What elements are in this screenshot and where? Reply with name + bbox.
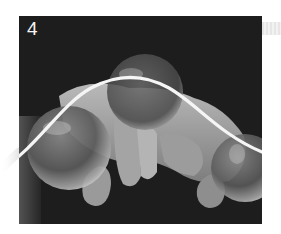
side-tab [262,22,281,35]
crystal-ball-top [107,54,183,130]
photo: 4 [19,16,262,224]
figure-page: 4 [0,0,281,234]
wave-fade-segment [0,152,19,170]
photo-illustration [19,16,262,224]
crystal-ball-left [27,106,111,190]
step-number-label: 4 [27,16,38,42]
